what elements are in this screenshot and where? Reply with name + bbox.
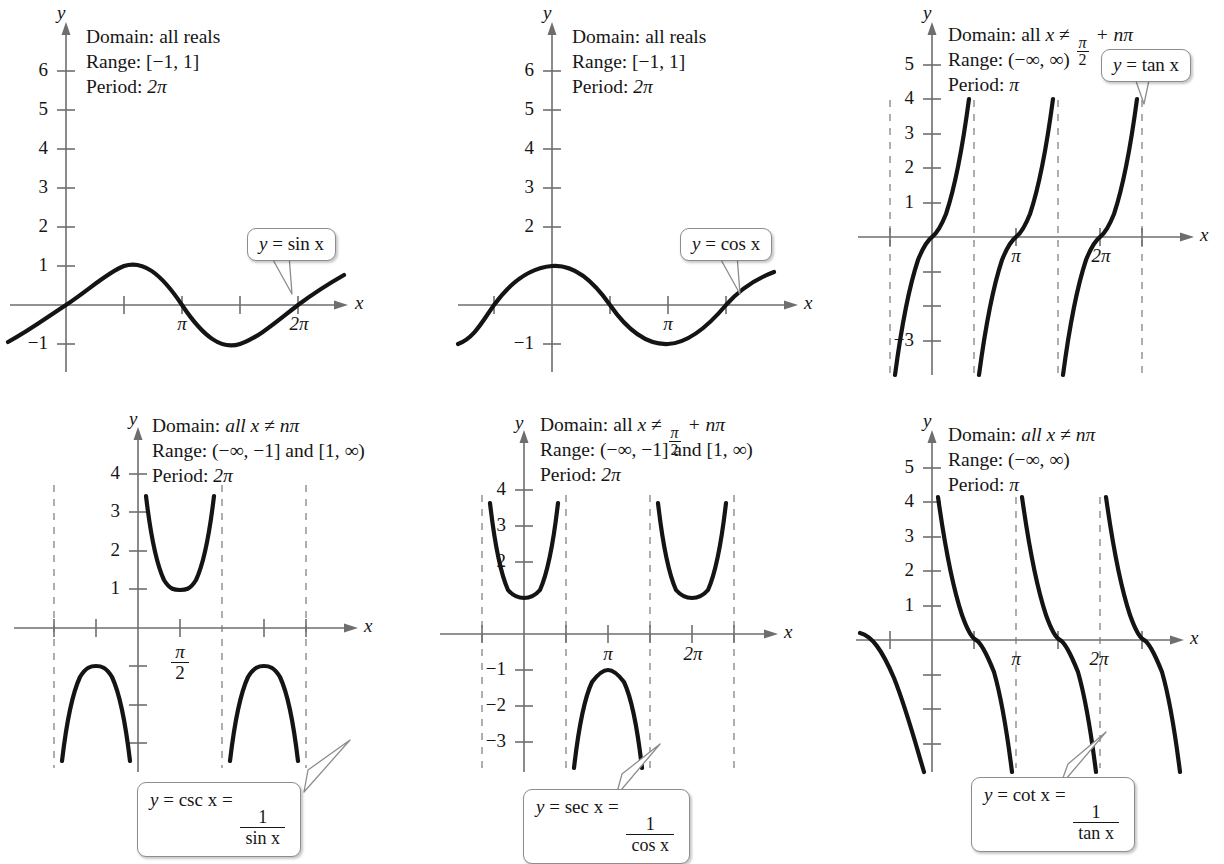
tangent-ytick-neg3: −3	[876, 329, 914, 351]
cotangent-ytick-2: 2	[884, 559, 914, 581]
cosecant-domain-value: all x ≠ nπ	[225, 415, 299, 436]
cotangent-ytick-4: 4	[884, 490, 914, 512]
panel-cosine: Domain: all reals Range: [−1, 1] Period:…	[400, 0, 820, 380]
cosine-function-callout[interactable]: y = cos x	[680, 228, 772, 261]
x-axis-arrow	[1180, 233, 1194, 242]
secant-info-block: Domain: all x ≠ π 2 + nπ Range: (−∞, −1]…	[540, 412, 753, 487]
cosecant-x-axis-label: x	[364, 615, 372, 637]
cosine-period-value: 2π	[633, 76, 653, 97]
cosine-xtick-pi: π	[654, 313, 682, 335]
cosine-ytick-6: 6	[504, 59, 534, 81]
tangent-function-callout[interactable]: y = tan x	[1101, 49, 1191, 82]
cotangent-period-label: Period:	[948, 474, 1004, 495]
secant-xtick-pi: π	[594, 643, 622, 665]
cotangent-range-label: Range:	[948, 449, 1003, 470]
sine-ytick-5: 5	[18, 98, 48, 120]
sine-domain-value: all reals	[159, 26, 220, 47]
secant-xtick-2pi: 2π	[674, 643, 712, 665]
cosecant-xtick-num: π	[171, 642, 189, 662]
tangent-frac-den: 2	[1077, 51, 1089, 68]
sine-period-row: Period: 2π	[86, 74, 220, 99]
cosecant-period-row: Period: 2π	[152, 463, 365, 488]
sine-range-value: [−1, 1]	[146, 51, 199, 72]
tangent-ytick-4: 4	[884, 87, 914, 109]
sine-ytick-1: 1	[18, 254, 48, 276]
tangent-y-axis-label: y	[923, 2, 931, 24]
sine-ytick-neg1: −1	[10, 332, 48, 354]
secant-function-callout[interactable]: y = sec x = 1 cos x	[523, 789, 690, 864]
cotangent-function-callout[interactable]: y = cot x = 1 tan x	[971, 777, 1135, 852]
sine-period-value: 2π	[147, 76, 167, 97]
secant-callout-num: 1	[641, 814, 660, 834]
tangent-callout-eq: =	[1126, 54, 1137, 75]
cosecant-function-callout[interactable]: y = csc x = 1 sin x	[137, 782, 301, 857]
cotangent-domain-label: Domain:	[948, 424, 1016, 445]
tangent-x-axis-label: x	[1200, 224, 1208, 246]
cosine-domain-label: Domain:	[572, 26, 640, 47]
cosecant-period-label: Period:	[152, 465, 208, 486]
cosine-ytick-4: 4	[504, 137, 534, 159]
cotangent-callout-mid: cot x	[1013, 784, 1050, 805]
cosine-domain-value: all reals	[645, 26, 706, 47]
sine-ytick-3: 3	[18, 176, 48, 198]
cosecant-xtick-den: 2	[171, 662, 189, 683]
secant-ytick-neg1: −1	[468, 658, 506, 680]
cosine-domain-row: Domain: all reals	[572, 24, 706, 49]
secant-callout-fraction: 1 cos x	[626, 814, 674, 855]
secant-ytick-neg3: −3	[468, 730, 506, 752]
cosine-ytick-5: 5	[504, 98, 534, 120]
secant-callout-y: y	[536, 796, 544, 817]
sine-range-label: Range:	[86, 51, 141, 72]
cotangent-callout-den: tan x	[1073, 822, 1119, 843]
tangent-range-value: (−∞, ∞)	[1008, 49, 1070, 70]
panel-secant: Domain: all x ≠ π 2 + nπ Range: (−∞, −1]…	[400, 400, 820, 861]
sine-ytick-6: 6	[18, 59, 48, 81]
sine-xtick-2pi: 2π	[280, 313, 318, 335]
tangent-range-label: Range:	[948, 49, 1003, 70]
tangent-period-label: Period:	[948, 74, 1004, 95]
tangent-xtick-2pi: 2π	[1082, 245, 1120, 267]
tangent-domain-prefix: all	[1021, 24, 1041, 45]
secant-domain-tail: + nπ	[688, 414, 726, 435]
tangent-domain-neq: ≠	[1059, 24, 1070, 45]
sine-y-axis-label: y	[57, 2, 65, 24]
tangent-domain-fraction: π 2	[1077, 35, 1089, 68]
cotangent-domain-row: Domain: all x ≠ nπ	[948, 422, 1095, 447]
secant-callout-eq2: =	[608, 796, 619, 817]
cosecant-ytick-3: 3	[90, 500, 120, 522]
x-axis-arrow	[1170, 636, 1184, 645]
tangent-period-value: π	[1009, 74, 1019, 95]
cosine-range-value: [−1, 1]	[632, 51, 685, 72]
cotangent-callout-y: y	[984, 784, 992, 805]
cotangent-period-row: Period: π	[948, 472, 1095, 497]
secant-domain-neq: ≠	[651, 414, 662, 435]
cosecant-info-block: Domain: all x ≠ nπ Range: (−∞, −1] and […	[152, 413, 365, 488]
panel-cosecant: Domain: all x ≠ nπ Range: (−∞, −1] and […	[0, 400, 420, 861]
secant-range-label: Range:	[540, 439, 595, 460]
tangent-xtick-pi: π	[1002, 245, 1030, 267]
tangent-ytick-2: 2	[884, 156, 914, 178]
sine-domain-label: Domain:	[86, 26, 154, 47]
secant-y-axis-label: y	[515, 412, 523, 434]
cosecant-range-value: (−∞, −1] and [1, ∞)	[212, 440, 365, 461]
cosecant-y-axis-label: y	[129, 408, 137, 430]
x-axis-arrow	[764, 630, 778, 639]
cosecant-domain-label: Domain:	[152, 415, 220, 436]
sine-function-callout[interactable]: y = sin x	[247, 228, 336, 261]
cosine-callout-y: y	[692, 233, 700, 254]
cosine-callout-rhs: cos x	[721, 233, 761, 254]
tangent-domain-var: x	[1046, 24, 1055, 45]
panel-sine: Domain: all reals Range: [−1, 1] Period:…	[0, 0, 408, 380]
tangent-ytick-5: 5	[884, 53, 914, 75]
secant-callout-mid: sec x	[565, 796, 604, 817]
tangent-frac-num: π	[1077, 35, 1089, 51]
secant-callout-den: cos x	[626, 834, 674, 855]
cotangent-xtick-pi: π	[1002, 648, 1030, 670]
secant-period-row: Period: 2π	[540, 462, 753, 487]
cotangent-callout-num: 1	[1087, 802, 1106, 822]
cosecant-callout-mid: csc x	[179, 789, 218, 810]
cotangent-callout-eq2: =	[1055, 784, 1066, 805]
cotangent-callout-fraction: 1 tan x	[1073, 802, 1119, 843]
cosecant-callout-den: sin x	[240, 827, 285, 848]
